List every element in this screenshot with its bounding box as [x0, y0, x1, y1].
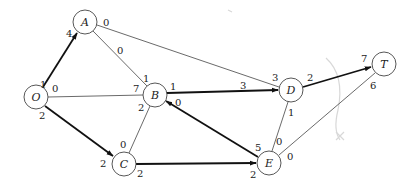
network-flow-diagram: O A B C D E T 1 4 0 7 2 2 0 1 0 3 1 3 2 … [0, 0, 419, 191]
edge-B-D [167, 90, 278, 93]
pencil-mark [326, 58, 340, 140]
edge-label-OB-to: 7 [133, 83, 139, 94]
edge-label-OC-to: 2 [100, 158, 106, 169]
node-E: E [257, 151, 281, 175]
edge-label-AD-to: 3 [272, 72, 278, 83]
edge-label-AB-from: 0 [117, 45, 123, 56]
edge-label-OA-to: 4 [66, 28, 72, 39]
node-A: A [73, 10, 97, 34]
edge-label-OA-from: 1 [40, 79, 46, 90]
edge-label-OC-from: 2 [39, 110, 45, 121]
edge-label-BD-to: 3 [240, 80, 246, 91]
edge-A-D [97, 25, 279, 87]
edge-label-EB-to: 0 [175, 97, 181, 108]
edge-O-B [48, 95, 143, 97]
edge-label-BC-from: 2 [138, 102, 144, 113]
edge-O-A [43, 33, 77, 87]
edge-label-AB-to: 1 [143, 73, 149, 84]
edge-label-CE-from: 2 [137, 168, 143, 179]
edge-label-ET-to: 6 [370, 80, 376, 91]
node-label: A [80, 16, 89, 29]
node-T: T [372, 52, 396, 76]
edge-label-BC-to: 0 [120, 139, 126, 150]
node-label: C [120, 158, 129, 171]
node-label: D [286, 84, 296, 97]
edge-label-CE-to: 2 [250, 169, 256, 180]
node-B: B [143, 83, 167, 107]
edge-B-C [129, 106, 150, 153]
edge-label-ET-from: 0 [287, 151, 293, 162]
node-label: E [264, 157, 273, 170]
edge-O-C [45, 106, 113, 156]
pencil-mark [228, 10, 232, 12]
edge-label-AD-from: 0 [103, 17, 109, 28]
edge-label-DE-to: 0 [276, 136, 282, 147]
edge-E-B [166, 101, 258, 157]
edge-label-DE-from: 1 [288, 107, 294, 118]
node-label: B [150, 89, 159, 102]
edge-C-E [136, 163, 256, 164]
edge-label-BD-from: 1 [170, 81, 176, 92]
edge-label-OB-from: 0 [52, 83, 58, 94]
node-C: C [112, 152, 136, 176]
node-label: O [31, 91, 40, 104]
edge-label-DT-to: 7 [361, 53, 367, 64]
edge-label-EB-from: 5 [255, 142, 261, 153]
edge-label-DT-from: 2 [307, 72, 313, 83]
node-D: D [279, 78, 303, 102]
